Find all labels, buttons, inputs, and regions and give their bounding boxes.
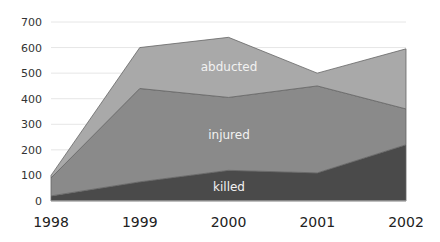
y-tick-label: 100 [21,169,42,182]
label-injured: injured [208,128,250,142]
x-tick-label: 2002 [388,214,424,230]
y-tick-label: 700 [21,16,42,29]
y-tick-label: 400 [21,93,42,106]
x-tick-label: 1999 [122,214,158,230]
x-tick-label: 2001 [299,214,335,230]
stacked-area-chart: 0100200300400500600700 19981999200020012… [0,0,440,242]
y-tick-label: 200 [21,144,42,157]
label-killed: killed [213,180,245,194]
y-tick-label: 300 [21,118,42,131]
x-axis: 19981999200020012002 [33,201,424,230]
y-tick-label: 600 [21,42,42,55]
y-tick-label: 500 [21,67,42,80]
x-tick-label: 2000 [211,214,247,230]
label-abducted: abducted [201,60,258,74]
y-tick-label: 0 [35,195,42,208]
x-tick-label: 1998 [33,214,69,230]
y-axis: 0100200300400500600700 [21,16,42,208]
